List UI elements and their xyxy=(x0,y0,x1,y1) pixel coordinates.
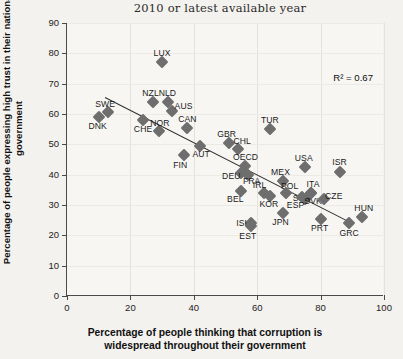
data-point-label: NZL xyxy=(142,88,159,98)
y-axis-title: Percentage of people expressing high tru… xyxy=(1,0,24,274)
data-point-label: TUR xyxy=(261,115,279,125)
data-point-label: USA xyxy=(295,153,313,163)
x-axis-tick xyxy=(321,295,322,300)
data-point-label: GRC xyxy=(339,228,358,238)
gridline-vertical xyxy=(130,23,131,295)
y-axis-tick-label: 30 xyxy=(35,199,59,210)
data-point-label: CAN xyxy=(178,114,196,124)
y-axis-tick xyxy=(62,114,67,115)
data-point-label: HUN xyxy=(354,203,373,213)
gridline-horizontal xyxy=(67,114,383,115)
data-point-label: ESP xyxy=(287,200,305,210)
gridline-horizontal xyxy=(67,53,383,54)
x-axis-title-line1: Percentage of people thinking that corru… xyxy=(88,327,323,338)
y-axis-tick-label: 0 xyxy=(35,290,59,301)
r-squared-annotation: R² = 0.67 xyxy=(333,72,373,83)
y-axis-tick-label: 60 xyxy=(35,108,59,119)
y-axis-tick xyxy=(62,84,67,85)
y-axis-tick xyxy=(62,205,67,206)
data-point-label: EST xyxy=(239,231,256,241)
data-point-label: MEX xyxy=(271,167,290,177)
y-axis-tick xyxy=(62,235,67,236)
data-point-label: IRL xyxy=(253,180,267,190)
x-axis-tick-label: 20 xyxy=(115,302,145,313)
y-axis-tick xyxy=(62,23,67,24)
y-axis-tick xyxy=(62,53,67,54)
data-point-label: DNK xyxy=(88,121,106,131)
y-axis-tick-label: 80 xyxy=(35,47,59,58)
x-axis-tick xyxy=(384,295,385,300)
y-axis-tick xyxy=(62,175,67,176)
data-point-label: AUS xyxy=(175,101,193,111)
y-axis-tick-label: 40 xyxy=(35,169,59,180)
y-axis-tick-label: 70 xyxy=(35,78,59,89)
data-point-label: CHL xyxy=(233,136,251,146)
x-axis-tick xyxy=(130,295,131,300)
data-point xyxy=(333,165,346,178)
data-point-label: AUT xyxy=(192,149,210,159)
gridline-horizontal xyxy=(67,23,383,24)
x-axis-title-line2: widespread throughout their government xyxy=(104,340,305,351)
x-axis-tick xyxy=(67,295,68,300)
gridline-vertical xyxy=(194,23,195,295)
gridline-horizontal xyxy=(67,235,383,236)
data-point-label: OECD xyxy=(233,152,258,162)
gridline-vertical xyxy=(321,23,322,295)
y-axis-tick-label: 10 xyxy=(35,260,59,271)
data-point-label: NLD xyxy=(159,88,177,98)
y-axis-tick-label: 20 xyxy=(35,229,59,240)
gridline-horizontal xyxy=(67,84,383,85)
x-axis-tick-label: 100 xyxy=(369,302,399,313)
x-axis-tick-label: 80 xyxy=(306,302,336,313)
y-axis-tick xyxy=(62,266,67,267)
gridline-horizontal xyxy=(67,205,383,206)
data-point-label: JPN xyxy=(272,217,289,227)
data-point-label: CZE xyxy=(325,191,343,201)
y-axis-tick xyxy=(62,144,67,145)
data-point-label: NOR xyxy=(150,118,169,128)
chart-page: 2010 or latest available year 0102030405… xyxy=(0,0,403,359)
x-axis-tick-label: 0 xyxy=(52,302,82,313)
data-point-label: KOR xyxy=(259,199,278,209)
data-point-label: POL xyxy=(281,181,299,191)
x-axis-tick xyxy=(194,295,195,300)
chart-title: 2010 or latest available year xyxy=(105,1,335,15)
x-axis-tick-label: 60 xyxy=(242,302,272,313)
x-axis-tick-label: 40 xyxy=(179,302,209,313)
data-point-label: SWE xyxy=(95,99,115,109)
data-point-label: ITA xyxy=(307,179,320,189)
data-point-label: ISR xyxy=(332,157,347,167)
x-axis-title: Percentage of people thinking that corru… xyxy=(40,327,370,352)
plot-area: 0102030405060708090020406080100DNKSWENZL… xyxy=(66,23,383,296)
y-axis-tick-label: 50 xyxy=(35,138,59,149)
data-point-label: DEU xyxy=(222,171,240,181)
gridline-vertical xyxy=(384,23,385,295)
data-point-label: PRT xyxy=(311,223,328,233)
data-point-label: FIN xyxy=(173,160,187,170)
y-axis-tick-label: 90 xyxy=(35,17,59,28)
data-point-label: LUX xyxy=(154,48,171,58)
x-axis-tick xyxy=(257,295,258,300)
gridline-horizontal xyxy=(67,266,383,267)
data-point-label: BEL xyxy=(227,194,244,204)
